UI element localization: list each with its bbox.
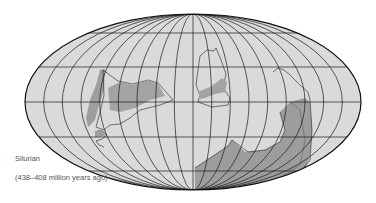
date-range-label: (438–408 million years ago): [15, 173, 108, 182]
period-label: Silurian: [15, 154, 40, 163]
